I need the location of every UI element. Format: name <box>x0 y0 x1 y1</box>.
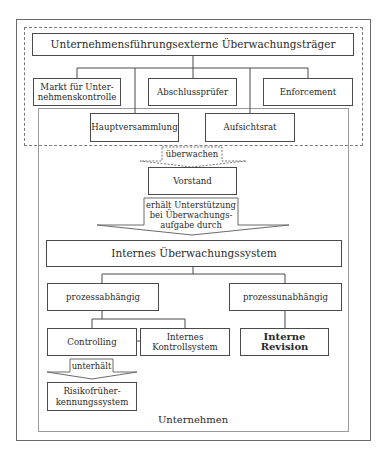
support-line1: erhält Unterstützung <box>144 200 238 210</box>
maintains-label: unterhält <box>70 361 113 371</box>
node-vorstand-label: Vorstand <box>173 176 212 187</box>
node-process-independent: prozessunabhängig <box>229 283 342 311</box>
node-aufsichtsrat: Aufsichtsrat <box>205 113 295 142</box>
node-markt-line1: Markt für Unter- <box>40 82 113 93</box>
support-arrow-label: erhält Unterstützung bei Überwachungs- a… <box>144 200 238 230</box>
node-risk-early-detection: Risikofrüher- kennungssystem <box>47 382 137 411</box>
node-markt: Markt für Unter- nehmenskontrolle <box>33 78 121 106</box>
node-markt-line2: nehmenskontrolle <box>38 92 117 103</box>
node-controlling-label: Controlling <box>67 337 116 348</box>
node-internal-control-system: Internes Kontrollsystem <box>140 328 230 356</box>
external-monitoring-title: Unternehmensführungsexterne Überwachungs… <box>51 39 336 50</box>
node-iks-line1: Internes <box>167 332 204 343</box>
node-abschlusspruefer: Abschlussprüfer <box>148 78 237 106</box>
node-hauptversammlung-label: Hauptversammlung <box>91 122 177 133</box>
node-enforcement: Enforcement <box>263 78 353 106</box>
internal-monitoring-system-box: Internes Überwachungssystem <box>46 240 342 267</box>
node-iks-line2: Kontrollsystem <box>152 342 218 353</box>
company-label: Unternehmen <box>143 414 243 425</box>
node-controlling: Controlling <box>47 328 137 356</box>
node-internal-audit: Interne Revision <box>240 328 329 356</box>
node-process-dependent: prozessabhängig <box>47 283 159 311</box>
support-line2: bei Überwachungs- <box>144 210 238 220</box>
node-internal-audit-label: Interne Revision <box>241 332 328 353</box>
node-abschlusspruefer-label: Abschlussprüfer <box>157 87 228 98</box>
external-monitoring-title-box: Unternehmensführungsexterne Überwachungs… <box>32 33 354 56</box>
internal-monitoring-system-title: Internes Überwachungssystem <box>111 248 277 259</box>
node-vorstand: Vorstand <box>148 167 237 195</box>
ueberwachen-label: überwachen <box>162 149 222 159</box>
node-process-independent-label: prozessunabhängig <box>243 292 328 303</box>
node-aufsichtsrat-label: Aufsichtsrat <box>224 122 277 133</box>
node-risk-line1: Risikofrüher- <box>63 386 120 397</box>
node-hauptversammlung: Hauptversammlung <box>90 113 179 142</box>
node-risk-line2: kennungssystem <box>56 397 129 408</box>
node-enforcement-label: Enforcement <box>280 87 336 98</box>
support-line3: aufgabe durch <box>144 220 238 230</box>
node-process-dependent-label: prozessabhängig <box>66 292 140 303</box>
